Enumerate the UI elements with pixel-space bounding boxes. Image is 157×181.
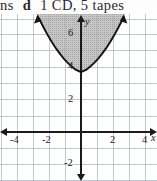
xtick-label-2: 2 — [110, 134, 115, 145]
page-text-fragment: nsd1 CD, 5 tapes — [0, 0, 157, 14]
x-axis-label: x — [151, 132, 156, 143]
text-fragment-1: ns — [0, 0, 14, 14]
ytick-label-2: 2 — [68, 93, 73, 104]
ytick-label-6: 6 — [68, 27, 73, 38]
text-fragment-3: 1 CD, 5 tapes — [40, 0, 124, 14]
text-fragment-2: d — [23, 0, 31, 14]
figure-root: nsd1 CD, 5 tapes — [0, 0, 157, 181]
y-axis-label: y — [85, 16, 90, 27]
xtick-label-neg2: -2 — [42, 134, 51, 145]
ytick-label-neg2: -2 — [64, 157, 73, 168]
graph-plate: -4 -2 2 4 6 4 2 -2 y x — [0, 14, 157, 181]
xtick-label-neg4: -4 — [10, 134, 19, 145]
parabola-curve — [0, 14, 157, 181]
xtick-label-4: 4 — [142, 134, 147, 145]
ytick-label-4: 4 — [68, 60, 73, 71]
